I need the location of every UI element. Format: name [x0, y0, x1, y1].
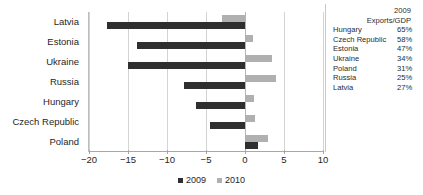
bar-2010-latvia [222, 15, 245, 22]
side-table-rows: Hungary65%Czech Republic58%Estonia47%Ukr… [333, 25, 423, 92]
bar-2010-ukraine [245, 55, 272, 62]
x-axis-ticks: −20−15−10−50510 [89, 154, 323, 168]
side-table-value: 47% [397, 44, 423, 54]
bar-2010-hungary [245, 95, 254, 102]
y-axis-label-czech-republic: Czech Republic [12, 117, 79, 127]
gridline [284, 12, 285, 152]
side-table-row: Estonia47% [333, 44, 423, 54]
side-table-value: 58% [397, 35, 423, 45]
legend-swatch-2009 [178, 178, 183, 183]
side-table-value: 65% [397, 25, 423, 35]
gridline [128, 12, 129, 152]
side-table-row: Hungary65% [333, 25, 423, 35]
legend-label-2009: 2009 [186, 176, 206, 185]
side-table-header-year: 2009 [333, 6, 411, 16]
x-tick-label: 10 [318, 154, 329, 165]
chart-legend: 20092010 [0, 176, 423, 185]
side-table-divider [325, 4, 326, 152]
axis-zero-line [245, 12, 246, 152]
legend-item-2010[interactable]: 2010 [217, 176, 245, 185]
y-axis-label-ukraine: Ukraine [46, 57, 79, 67]
y-axis-label-latvia: Latvia [54, 17, 79, 27]
side-table: 2009 Exports/GDP Hungary65%Czech Republi… [333, 6, 423, 92]
y-axis-labels: LatviaEstoniaUkraineRussiaHungaryCzech R… [0, 12, 83, 152]
side-table-row: Russia25% [333, 73, 423, 83]
side-table-value: 27% [397, 83, 423, 93]
side-table-country: Russia [333, 73, 356, 83]
bar-2010-czech-republic [245, 115, 255, 122]
bar-2009-estonia [137, 42, 245, 49]
y-axis-label-russia: Russia [50, 77, 79, 87]
bar-2009-russia [184, 82, 245, 89]
bar-2009-hungary [196, 102, 245, 109]
bar-2009-czech-republic [210, 122, 245, 129]
plot-area [89, 12, 323, 152]
bar-2010-poland [245, 135, 268, 142]
side-table-country: Ukraine [333, 54, 359, 64]
side-table-row: Latvia27% [333, 83, 423, 93]
gridline [89, 12, 90, 152]
side-table-row: Poland31% [333, 64, 423, 74]
y-axis-label-estonia: Estonia [47, 37, 79, 47]
chart-root: LatviaEstoniaUkraineRussiaHungaryCzech R… [0, 0, 423, 195]
y-axis-label-poland: Poland [49, 137, 79, 147]
legend-label-2010: 2010 [225, 176, 245, 185]
side-table-value: 34% [397, 54, 423, 64]
side-table-country: Poland [333, 64, 357, 74]
legend-swatch-2010 [217, 178, 222, 183]
bar-2010-russia [245, 75, 276, 82]
gridline [323, 12, 324, 152]
y-axis-label-hungary: Hungary [43, 97, 79, 107]
x-tick-label: 5 [281, 154, 286, 165]
side-table-country: Czech Republic [333, 35, 386, 45]
side-table-header: 2009 Exports/GDP [333, 6, 423, 25]
bar-2010-estonia [245, 35, 253, 42]
bar-2009-ukraine [128, 62, 245, 69]
side-table-row: Czech Republic58% [333, 35, 423, 45]
side-table-country: Latvia [333, 83, 353, 93]
side-table-value: 31% [397, 64, 423, 74]
gridline [167, 12, 168, 152]
x-tick-label: −5 [201, 154, 212, 165]
bar-2009-latvia [107, 22, 245, 29]
side-table-header-metric: Exports/GDP [333, 16, 411, 26]
side-table-country: Estonia [333, 44, 358, 54]
x-tick-label: −20 [81, 154, 97, 165]
axis-left-spine [88, 12, 89, 152]
x-tick-label: −15 [120, 154, 136, 165]
side-table-row: Ukraine34% [333, 54, 423, 64]
side-table-country: Hungary [333, 25, 362, 35]
bar-2009-poland [245, 142, 258, 149]
side-table-value: 25% [397, 73, 423, 83]
x-tick-label: 0 [242, 154, 247, 165]
x-tick-label: −10 [159, 154, 175, 165]
legend-item-2009[interactable]: 2009 [178, 176, 206, 185]
